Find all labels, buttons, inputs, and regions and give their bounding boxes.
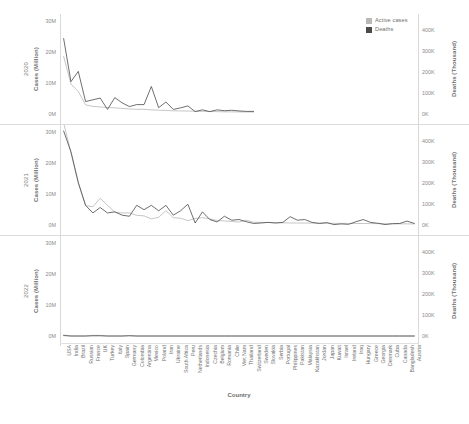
covid-cases-deaths-chart: Active cases Deaths 2020 Cases (Million)… — [0, 0, 469, 424]
facet-year-2021: 2021 — [24, 173, 30, 187]
x-axis-label[interactable]: South Africa — [183, 345, 189, 373]
y-tick: 10M — [46, 80, 57, 86]
y-axis-line-right — [418, 125, 419, 235]
x-axis-label[interactable]: Switzerland — [256, 345, 262, 372]
x-axis-label[interactable]: Brazil — [80, 345, 86, 358]
x-axis-label[interactable]: Georgia — [380, 345, 386, 363]
y-tick: 30M — [46, 129, 57, 135]
y-tick: 10M — [46, 302, 57, 308]
y-axis-line-right — [418, 14, 419, 124]
x-axis-label[interactable]: USA — [66, 345, 72, 356]
series-line-active-cases — [64, 125, 415, 224]
x-axis-label[interactable]: Argentina — [146, 345, 152, 367]
x-axis-label[interactable]: France — [95, 345, 101, 361]
x-axis-label[interactable]: Sweden — [263, 345, 269, 364]
series-line-deaths — [64, 131, 415, 225]
plot-area-2021 — [60, 125, 418, 235]
x-axis-label[interactable]: Israel — [343, 345, 349, 358]
y-tick: 300K — [422, 270, 435, 276]
y-tick: 30M — [46, 240, 57, 246]
y-ticks-right-2021: 400K 300K 200K 100K 0K — [420, 125, 446, 235]
x-axis-label[interactable]: Bangladesh — [409, 345, 415, 372]
y-tick: 0M — [49, 111, 57, 117]
x-axis-label[interactable]: Kazakhstan — [314, 345, 320, 372]
y-ticks-right-2022: 400K 300K 200K 100K 0K — [420, 236, 446, 346]
y-tick: 400K — [422, 27, 435, 33]
x-axis-label[interactable]: Greece — [373, 345, 379, 362]
plot-area-2022 — [60, 236, 418, 346]
y-tick: 200K — [422, 69, 435, 75]
x-axis-label[interactable]: Iraq — [358, 345, 364, 354]
x-axis-tick-labels: USAIndiaBrazilRussianFranceUKTurkeyItaly… — [60, 344, 418, 396]
x-axis-label[interactable]: Italy — [117, 345, 123, 355]
x-axis-label[interactable]: Austria — [416, 345, 422, 361]
y-tick: 10M — [46, 191, 57, 197]
x-axis-label[interactable]: Netherlands — [197, 345, 203, 373]
x-axis-label[interactable]: Mexico — [153, 345, 159, 361]
x-axis-label[interactable]: Ireland — [351, 345, 357, 361]
series-line-deaths — [64, 39, 254, 112]
panel-2020: 2020 Cases (Million) 30M 20M 10M 0M 400K… — [0, 14, 469, 124]
x-axis-label[interactable]: Canada — [402, 345, 408, 363]
facet-label-2020: 2020 — [22, 14, 31, 124]
x-axis-label[interactable]: Denmark — [387, 345, 393, 366]
y-tick: 20M — [46, 160, 57, 166]
y-tick: 0M — [49, 333, 57, 339]
series-line-active-cases — [64, 56, 254, 112]
x-axis-label[interactable]: Philippines — [292, 345, 298, 370]
y-axis-title-right: Deaths (Thousand) — [449, 125, 459, 235]
y-ticks-left-2022: 30M 20M 10M 0M — [38, 236, 58, 346]
y-tick: 0M — [49, 222, 57, 228]
x-axis-label[interactable]: UK — [102, 345, 108, 352]
x-axis-label[interactable]: Peru — [190, 345, 196, 356]
y-ticks-right-2020: 400K 300K 200K 100K 0K — [420, 14, 446, 124]
x-axis-label[interactable]: Portugal — [285, 345, 291, 364]
x-axis-label[interactable]: Thailand — [248, 345, 254, 365]
y-ticks-left-2021: 30M 20M 10M 0M — [38, 125, 58, 235]
x-axis-label[interactable]: Romania — [226, 345, 232, 366]
x-axis-label[interactable]: Slovakia — [270, 345, 276, 365]
x-axis-label[interactable]: Pakistan — [299, 345, 305, 365]
y-tick: 200K — [422, 180, 435, 186]
x-axis-label[interactable]: Iran — [168, 345, 174, 354]
series-lines-2020 — [60, 14, 418, 124]
x-axis-label[interactable]: Poland — [161, 345, 167, 361]
plot-area-2020 — [60, 14, 418, 124]
x-axis-label[interactable]: India — [73, 345, 79, 356]
x-axis-label[interactable]: Turkey — [109, 345, 115, 361]
x-axis-label[interactable]: Viet Nam — [241, 345, 247, 366]
x-axis-label[interactable]: Indonesia — [204, 345, 210, 368]
series-lines-2022 — [60, 236, 418, 346]
x-axis-label[interactable]: Cuba — [394, 345, 400, 357]
x-axis-label[interactable]: Kuwait — [336, 345, 342, 361]
y-tick: 20M — [46, 271, 57, 277]
y-tick: 20M — [46, 49, 57, 55]
x-axis-label[interactable]: Ukraine — [175, 345, 181, 363]
x-axis-label[interactable]: Belgium — [219, 345, 225, 364]
x-axis-label[interactable]: Hungary — [365, 345, 371, 365]
facet-year-2022: 2022 — [24, 284, 30, 298]
y-tick: 100K — [422, 201, 435, 207]
facet-year-2020: 2020 — [24, 62, 30, 76]
x-axis-label[interactable]: Colombia — [139, 345, 145, 367]
facet-label-2022: 2022 — [22, 236, 31, 346]
x-axis-label[interactable]: Japan — [329, 345, 335, 359]
x-axis-label[interactable]: Malaysia — [307, 345, 313, 365]
x-axis-label[interactable]: Jordan — [321, 345, 327, 361]
y-tick: 0K — [422, 111, 429, 117]
x-axis-label[interactable]: Spain — [124, 345, 130, 358]
x-axis-label[interactable]: Chile — [234, 345, 240, 357]
y-tick: 200K — [422, 291, 435, 297]
x-axis-label[interactable]: Russian — [88, 345, 94, 364]
y-tick: 300K — [422, 159, 435, 165]
facet-panels: 2020 Cases (Million) 30M 20M 10M 0M 400K… — [0, 14, 469, 344]
x-axis: USAIndiaBrazilRussianFranceUKTurkeyItaly… — [60, 344, 418, 399]
x-axis-label[interactable]: Serbia — [278, 345, 284, 360]
panel-2021: 2021 Cases (Million) 30M 20M 10M 0M 400K… — [0, 124, 469, 235]
y-axis-title-right: Deaths (Thousand) — [449, 14, 459, 124]
y-tick: 300K — [422, 48, 435, 54]
y-tick: 0K — [422, 333, 429, 339]
x-axis-label[interactable]: Czechia — [212, 345, 218, 364]
x-axis-label[interactable]: Germany — [131, 345, 137, 366]
y-tick: 100K — [422, 312, 435, 318]
